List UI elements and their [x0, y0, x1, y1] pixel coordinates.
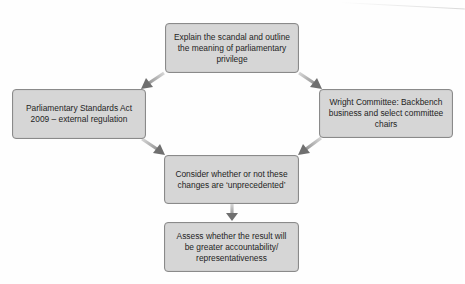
node-wright-committee: Wright Committee: Backbench business and…: [319, 89, 453, 138]
arrow-middle-to-bottom: [226, 204, 238, 221]
node-text-line: chairs: [329, 119, 444, 130]
node-text-line: business and select committee: [329, 108, 444, 119]
node-text-line: Wright Committee: Backbench: [329, 97, 444, 108]
arrow-top-to-left: [141, 73, 164, 89]
node-text-line: Assess whether the result will: [177, 231, 287, 242]
arrow-right-to-middle: [298, 138, 321, 155]
node-text-line: be greater accountability/: [177, 242, 287, 253]
node-text-line: Consider whether or not these: [175, 169, 287, 180]
node-text-line: Parliamentary Standards Act: [26, 103, 132, 114]
node-explain-scandal: Explain the scandal and outline the mean…: [165, 23, 299, 73]
node-text-line: representativeness: [177, 253, 287, 264]
page-edge-line: [340, 2, 465, 10]
node-text-line: the meaning of parliamentary: [174, 43, 290, 54]
node-text-line: 2009 – external regulation: [26, 114, 132, 125]
node-consider-unprecedented: Consider whether or not these changes ar…: [164, 155, 299, 204]
node-assess-result: Assess whether the result will be greate…: [164, 222, 299, 272]
node-text-line: Explain the scandal and outline: [174, 32, 290, 43]
arrow-top-to-right: [299, 73, 322, 89]
arrow-left-to-middle: [142, 139, 165, 155]
node-parliamentary-standards-act: Parliamentary Standards Act 2009 – exter…: [12, 89, 146, 139]
node-text-line: changes are ‘unprecedented’: [175, 180, 287, 191]
node-text-line: privilege: [174, 54, 290, 65]
